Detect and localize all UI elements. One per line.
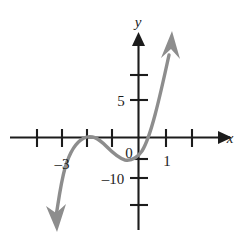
x-tick-label-1: 1 [163,153,171,169]
x-tick-label-minus3: –3 [54,156,70,172]
y-tick-label-minus10: –10 [101,171,125,187]
y-tick-label-5: 5 [117,93,125,109]
coordinate-plane-svg: x y 0 –3 1 5 –10 [0,0,252,241]
y-axis-label: y [133,14,142,30]
origin-label: 0 [125,145,133,161]
y-axis-arrowhead-icon [132,32,145,46]
x-axis [10,131,232,144]
graph-figure: x y 0 –3 1 5 –10 [0,0,252,241]
x-axis-label: x [226,130,234,146]
y-axis [132,32,145,230]
